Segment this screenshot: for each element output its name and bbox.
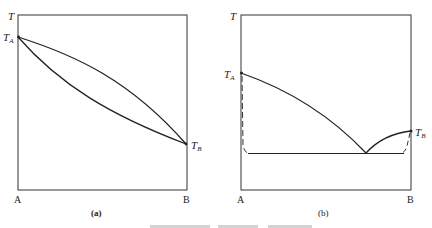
ta-label: TA (224, 68, 235, 82)
liquidus-right-curve (366, 131, 411, 153)
liquidus-curve (18, 37, 186, 144)
point-ta (240, 72, 243, 75)
x-left-label: A (237, 194, 245, 205)
phase-diagrams: T TA TB A B (a) T TA TB A B (b) (0, 0, 432, 228)
ta-label: TA (3, 31, 14, 45)
caption-a: (a) (91, 208, 102, 218)
tb-label: TB (191, 139, 202, 153)
point-tb (185, 143, 188, 146)
point-ta (17, 36, 20, 39)
x-left-label: A (14, 194, 22, 205)
panel-a-frame (18, 15, 187, 190)
solid-solubility-a-dashed (242, 76, 250, 154)
cropped-caption-fragment (150, 225, 312, 228)
panel-b: T TA TB A B (b) (224, 10, 426, 218)
x-right-label: B (183, 194, 190, 205)
x-right-label: B (407, 194, 414, 205)
caption-b: (b) (318, 208, 329, 218)
panel-b-frame (241, 15, 411, 190)
panel-a: T TA TB A B (a) (3, 10, 202, 218)
solidus-curve (18, 37, 186, 144)
y-axis-label: T (8, 10, 15, 22)
liquidus-left-curve (241, 73, 366, 153)
solid-solubility-b-dashed (400, 133, 410, 154)
y-axis-label: T (230, 10, 237, 22)
point-tb (410, 130, 413, 133)
tb-label: TB (415, 126, 426, 140)
